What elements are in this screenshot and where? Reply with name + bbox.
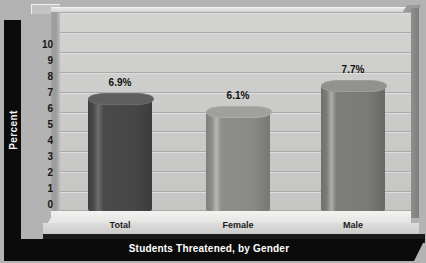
chart-screenshot: 10 9 8 7 6 5 4 3 2 1 0 6.9% 6.1% 7.7%: [0, 0, 426, 263]
category-label-female: Female: [222, 220, 253, 230]
x-axis-categories: Total Female Male: [21, 4, 413, 240]
category-label-total: Total: [110, 220, 131, 230]
chart-title: Students Threatened, by Gender: [4, 243, 414, 254]
y-axis-title: Percent: [7, 110, 18, 150]
y-axis-title-panel: Percent: [4, 20, 21, 240]
chart-title-bar: Students Threatened, by Gender: [4, 239, 414, 261]
category-label-male: Male: [343, 220, 363, 230]
